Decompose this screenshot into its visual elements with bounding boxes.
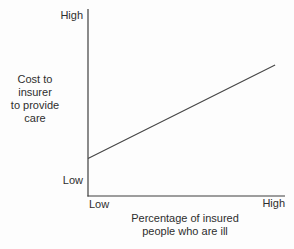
x-axis-tick-low: Low: [89, 198, 129, 210]
x-axis-title-line-2: people who are ill: [108, 225, 262, 238]
y-axis-title-line-3: to provide: [4, 99, 66, 112]
x-axis-title-line-1: Percentage of insured: [108, 212, 262, 225]
x-axis-tick-high: High: [253, 197, 285, 209]
y-axis-title-line-4: care: [4, 112, 66, 125]
line-graph-figure: High Low Cost to insurer to provide care…: [0, 0, 294, 249]
x-axis-title: Percentage of insured people who are ill: [108, 212, 262, 237]
y-axis-tick-low: Low: [30, 174, 83, 186]
trend-line: [88, 65, 275, 159]
y-axis-tick-high: High: [30, 9, 83, 21]
y-axis-title-line-2: insurer: [4, 86, 66, 99]
y-axis-title-line-1: Cost to: [4, 73, 66, 86]
y-axis-title: Cost to insurer to provide care: [4, 73, 66, 125]
